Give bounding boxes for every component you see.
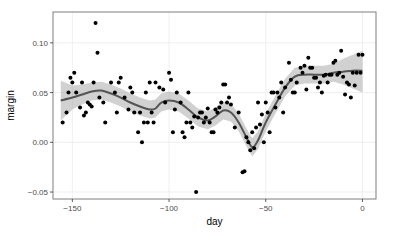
data-point [242, 169, 246, 173]
data-point [132, 110, 136, 114]
data-point [72, 71, 76, 75]
x-axis-title: day [206, 216, 222, 227]
data-point [341, 75, 345, 79]
data-point [310, 66, 314, 70]
y-axis-title: margin [5, 90, 16, 121]
data-point [101, 101, 105, 105]
data-point [123, 96, 127, 100]
data-point [326, 81, 330, 85]
data-point [206, 106, 210, 110]
data-point [252, 146, 256, 150]
data-point [262, 140, 266, 144]
data-point [192, 114, 196, 118]
data-point [74, 91, 78, 95]
data-point [190, 125, 194, 129]
y-tick-label: 0.00 [32, 138, 48, 147]
data-point [117, 81, 121, 85]
data-point [293, 91, 297, 95]
data-point [333, 59, 337, 63]
data-point [302, 64, 306, 68]
data-point [148, 81, 152, 85]
data-point [119, 76, 123, 80]
data-point [254, 125, 258, 129]
data-point [80, 81, 84, 85]
data-point [208, 120, 212, 124]
data-point [84, 110, 88, 114]
y-axis: −0.050.000.050.10 [28, 39, 53, 197]
data-point [277, 96, 281, 100]
scatter-plot: −150−100−500 −0.050.000.050.10 day margi… [0, 0, 395, 233]
data-point [273, 105, 277, 109]
data-point [200, 110, 204, 114]
data-point [181, 130, 185, 134]
data-point [136, 130, 140, 134]
data-point [92, 81, 96, 85]
data-points [61, 21, 365, 194]
data-point [157, 86, 161, 90]
data-point [250, 130, 254, 134]
data-point [217, 105, 221, 109]
data-point [95, 51, 99, 55]
data-point [167, 71, 171, 75]
data-point [314, 76, 318, 80]
x-tick-label: −150 [63, 204, 82, 213]
data-point [126, 107, 130, 111]
y-tick-label: −0.05 [28, 188, 49, 197]
data-point [186, 91, 190, 95]
data-point [65, 110, 69, 114]
data-point [202, 120, 206, 124]
grid-lines [53, 12, 376, 199]
y-tick-label: 0.05 [32, 89, 48, 98]
x-tick-label: −50 [259, 204, 273, 213]
data-point [268, 130, 272, 134]
data-point [355, 71, 359, 75]
data-point [215, 110, 219, 114]
y-tick-label: 0.10 [32, 39, 48, 48]
data-point [171, 130, 175, 134]
data-point [295, 81, 299, 85]
data-point [161, 88, 165, 92]
data-point [61, 120, 65, 124]
data-point [339, 49, 343, 53]
data-point [66, 91, 70, 95]
data-point [175, 91, 179, 95]
data-point [204, 115, 208, 119]
data-point [227, 96, 231, 100]
data-point [343, 93, 347, 97]
data-point [179, 101, 183, 105]
confidence-band [61, 51, 363, 156]
data-point [109, 81, 113, 85]
data-point [142, 120, 146, 124]
data-point [304, 88, 308, 92]
data-point [103, 120, 107, 124]
data-point [264, 101, 268, 105]
data-point [271, 91, 275, 95]
data-point [318, 81, 322, 85]
data-point [246, 140, 250, 144]
data-point [194, 190, 198, 194]
x-axis: −150−100−500 [63, 199, 365, 213]
data-point [219, 101, 223, 105]
data-point [324, 73, 328, 77]
data-point [349, 96, 353, 100]
data-point [163, 101, 167, 105]
data-point [360, 53, 364, 57]
data-point [152, 120, 156, 124]
data-point [90, 104, 94, 108]
data-point [128, 86, 132, 90]
data-point [212, 130, 216, 134]
data-point [113, 91, 117, 95]
data-point [237, 110, 241, 114]
data-point [150, 110, 154, 114]
x-tick-label: −100 [160, 204, 179, 213]
data-point [306, 56, 310, 60]
data-point [275, 91, 279, 95]
data-point [258, 122, 262, 126]
data-point [351, 71, 355, 75]
data-point [330, 73, 334, 77]
data-point [281, 110, 285, 114]
data-point [244, 135, 248, 139]
data-point [233, 125, 237, 129]
data-point [130, 91, 134, 95]
data-point [299, 66, 303, 70]
